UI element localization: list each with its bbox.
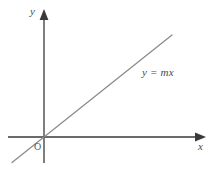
equation-label: y = mx: [142, 67, 174, 78]
figure-canvas: y x O y = mx: [0, 0, 217, 178]
coordinate-plot-svg: [0, 0, 217, 178]
y-axis-label: y: [30, 6, 35, 17]
y-axis-arrowhead: [40, 9, 49, 20]
x-axis-label: x: [198, 141, 203, 152]
origin-label: O: [34, 142, 41, 152]
